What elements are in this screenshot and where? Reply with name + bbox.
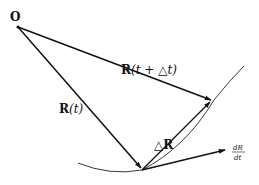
label-derivative: dR dt [232,144,245,162]
derivative-denominator: dt [234,154,241,162]
vector-delta-r [142,102,210,170]
origin-label: O [10,10,20,24]
vector-r-t-plus-dt [18,27,211,100]
label-r-t-dt-rest: (t + △t) [131,63,177,77]
vector-derivative [142,150,225,170]
origin-point [16,25,19,28]
label-delta-bold: R [163,138,174,152]
label-r-t-dt: R(t + △t) [121,63,177,77]
label-delta-r: △R [154,138,174,152]
kinematics-diagram: O R(t) R(t + △t) △R dR dt [0,0,259,185]
label-r-t: R(t) [59,102,83,116]
derivative-numerator: dR [233,144,243,152]
label-r-t-rest: (t) [69,102,84,116]
vector-r-t [18,27,141,168]
